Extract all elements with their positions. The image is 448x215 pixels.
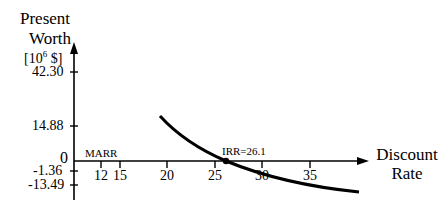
x-tick-label-25: 25: [208, 169, 222, 183]
y-tick-label-14.88: 14.88: [32, 119, 64, 133]
y-axis-title-line2: Worth: [29, 30, 71, 47]
irr-point: [223, 158, 229, 164]
x-tick-label-30: 30: [255, 169, 269, 183]
marr-annotation: MARR: [85, 148, 117, 159]
x-axis-title-line1: Discount: [372, 146, 442, 163]
x-tick-label-35: 35: [303, 169, 317, 183]
y-tick-label-42.30: 42.30: [32, 65, 64, 79]
x-tick-label-15: 15: [113, 169, 127, 183]
x-tick-label-12: 12: [94, 169, 108, 183]
x-axis-arrow-icon: [357, 157, 369, 165]
irr-annotation: IRR=26.1: [222, 146, 266, 157]
x-axis-title-line2: Rate: [372, 165, 442, 182]
x-tick-label-20: 20: [160, 169, 174, 183]
y-axis-arrow-icon: [70, 42, 78, 54]
y-tick-label-minus-1.36: -1.36: [33, 164, 62, 178]
y-axis-title-line1: Present: [20, 10, 70, 27]
y-tick-label-minus-13.49: -13.49: [28, 178, 64, 192]
